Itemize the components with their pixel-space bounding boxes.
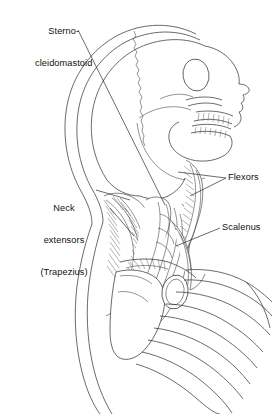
label-neck-extensors: Neck extensors (Trapezius) <box>18 182 110 288</box>
orbit <box>181 57 211 92</box>
label-sternocleidomastoid-line2: cleidomastoid <box>35 58 92 69</box>
label-sternocleidomastoid-line1: Sterno- <box>35 26 92 37</box>
label-flexors: Flexors <box>228 172 259 183</box>
maxillary-teeth <box>194 111 233 126</box>
anatomy-figure: Sterno- cleidomastoid Neck extensors (Tr… <box>0 0 275 414</box>
facial-profile <box>205 46 249 127</box>
mandible <box>169 122 232 161</box>
label-scalenus: Scalenus <box>222 222 261 233</box>
label-neck-extensors-line1: Neck <box>18 203 110 214</box>
label-neck-extensors-line3: (Trapezius) <box>18 267 110 278</box>
leader-flexors-2 <box>178 172 226 178</box>
label-neck-extensors-line2: extensors <box>18 235 110 246</box>
coronal-suture <box>133 31 145 146</box>
label-sternocleidomastoid: Sterno- cleidomastoid <box>35 5 92 79</box>
zygomatic-arch <box>186 97 222 106</box>
scapula <box>110 270 165 359</box>
